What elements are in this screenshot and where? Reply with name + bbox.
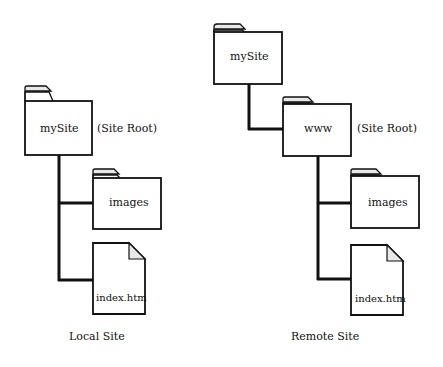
remote-index-file-icon [351,245,403,315]
local-root-folder-label: mySite [40,122,79,135]
local-images-label: images [109,196,149,209]
local-index-file-icon [93,243,145,314]
local-index-label: index.htm [96,292,147,303]
remote-images-label: images [368,196,408,209]
local-root-folder-icon [25,86,92,155]
remote-root-annotation: (Site Root) [357,122,417,135]
local-site-caption: Local Site [69,330,125,343]
diagram-canvas [0,0,443,367]
remote-top-folder-label: mySite [230,50,269,63]
remote-index-label: index.htm [355,293,406,304]
remote-root-folder-label: www [304,122,332,135]
remote-site-caption: Remote Site [291,330,359,343]
local-tree-connectors [58,155,93,281]
local-root-annotation: (Site Root) [97,122,157,135]
